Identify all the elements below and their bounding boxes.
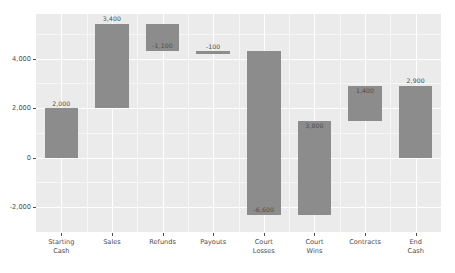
x-axis-tick-mark (416, 233, 417, 236)
x-axis-tick-mark (112, 233, 113, 236)
y-axis-tick-label: -2,000 (10, 203, 31, 211)
x-axis-tick-label: End Cash (381, 238, 451, 255)
gridline-vertical-minor (87, 14, 88, 232)
x-axis-tick-mark (163, 233, 164, 236)
y-axis-tick-label: 4,000 (12, 55, 31, 63)
bar-data-label: -6,600 (235, 206, 292, 213)
bar-data-label: 3,400 (83, 15, 140, 22)
x-axis-tick-mark (61, 233, 62, 236)
bar-data-label: 2,900 (387, 77, 444, 84)
bar-data-label: -1,100 (134, 42, 191, 49)
bar-court-losses[interactable] (247, 51, 280, 215)
y-axis-tick-mark (33, 207, 36, 208)
bar-data-label: 1,400 (336, 87, 393, 94)
bar-data-label: -100 (184, 43, 241, 50)
gridline-vertical (365, 14, 366, 232)
x-axis-tick-mark (213, 233, 214, 236)
gridline-vertical-minor (390, 14, 391, 232)
y-axis-tick-mark (33, 108, 36, 109)
x-axis-tick-mark (365, 233, 366, 236)
x-axis-tick-mark (264, 233, 265, 236)
bar-sales[interactable] (95, 24, 128, 108)
y-axis-tick-label: 2,000 (12, 104, 31, 112)
bar-data-label: 3,800 (286, 122, 343, 129)
x-axis-tick-mark (314, 233, 315, 236)
bar-starting-cash[interactable] (45, 108, 78, 158)
bar-end-cash[interactable] (399, 86, 432, 158)
bar-data-label: 2,000 (33, 100, 90, 107)
y-axis-tick-mark (33, 59, 36, 60)
y-axis-tick-label: 0 (27, 154, 31, 162)
waterfall-chart: -2,00002,0004,000 Starting CashSalesRefu… (0, 0, 455, 273)
bar-payouts[interactable] (196, 51, 229, 53)
bar-court-wins[interactable] (298, 121, 331, 215)
y-axis-tick-mark (33, 158, 36, 159)
